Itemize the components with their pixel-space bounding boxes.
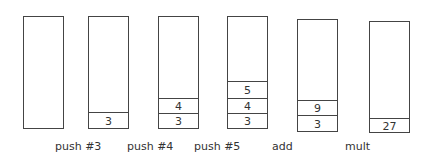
stack-after-add: 39 [297,19,338,132]
operation-label: add [272,140,293,153]
stack-cell: 3 [298,115,337,132]
stack-cell: 4 [228,98,267,113]
stack-cell: 4 [159,98,198,113]
stack-after-mult: 27 [369,21,410,133]
operation-label: mult [345,140,370,153]
stack-cell: 3 [89,112,128,129]
operation-label: push #3 [55,140,101,153]
stack-initial [23,16,64,129]
stack-after-push-3: 3 [88,16,129,129]
operation-label: push #4 [127,140,173,153]
stack-cell: 3 [159,113,198,129]
stack-cell: 5 [228,81,267,98]
stack-cell: 27 [370,118,409,133]
stack-cell: 9 [298,100,337,115]
operation-label: push #5 [194,140,240,153]
stack-cell: 3 [228,113,267,129]
stack-after-push-4: 34 [158,16,199,129]
stack-after-push-5: 345 [227,16,268,129]
